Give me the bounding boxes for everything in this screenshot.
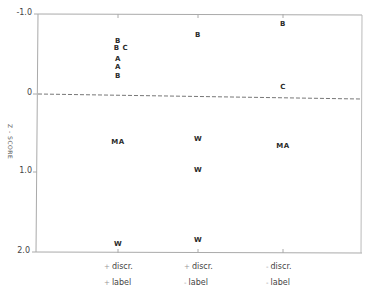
right-axis-line	[361, 15, 362, 253]
left-axis-line	[36, 14, 38, 252]
data-point: B	[195, 31, 201, 39]
data-point: C	[280, 83, 286, 91]
x-category-label: +discr. +label	[104, 259, 133, 291]
data-point: W	[194, 236, 202, 244]
top-axis-line	[38, 14, 362, 15]
y-tick-label: 0	[2, 88, 32, 97]
data-point: W	[194, 135, 202, 143]
data-point: W	[114, 240, 122, 248]
zero-reference-line	[38, 94, 361, 99]
chart-frame	[0, 0, 369, 292]
data-point: A	[115, 55, 121, 63]
bottom-axis-line	[36, 252, 362, 253]
y-axis-label: Z - SCORE	[7, 124, 14, 159]
chart: -1.0 0 1.0 2.0 Z - SCORE BB CAABMAWBWWWB…	[0, 0, 369, 292]
y-tick-label: 2.0	[0, 246, 30, 255]
x-category-label: +discr. -label	[184, 259, 213, 291]
data-point: B	[115, 72, 121, 80]
data-point: B C	[114, 44, 128, 52]
data-point: MA	[111, 138, 124, 146]
y-tick-label: 1.0	[2, 166, 32, 175]
data-point: A	[115, 63, 121, 71]
data-point: MA	[276, 142, 289, 150]
x-category-label: -discr. -label	[266, 259, 292, 291]
data-point: W	[194, 166, 202, 174]
y-tick-label: -1.0	[2, 8, 32, 17]
data-point: B	[280, 20, 286, 28]
